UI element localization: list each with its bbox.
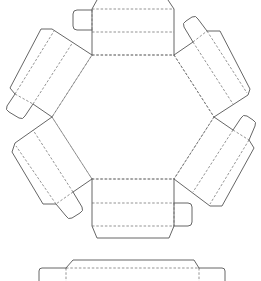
panel-upper-right [174,16,250,117]
hexagon-box-net-diagram [0,0,261,281]
panel-top [73,0,174,55]
panel-lower-left [12,117,92,219]
panel-upper-left [6,29,92,119]
lid-strip [39,260,225,281]
panel-bottom [92,179,192,238]
panel-lower-right [174,115,256,206]
glue-tab [174,203,192,226]
glue-tab [73,10,92,30]
hexagon-base [52,55,214,179]
